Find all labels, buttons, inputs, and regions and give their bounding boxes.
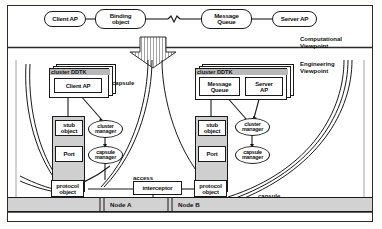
odp-architecture-diagram: Client AP Binding object Message Queue S… [0, 0, 382, 229]
node-band-separators [0, 0, 382, 229]
